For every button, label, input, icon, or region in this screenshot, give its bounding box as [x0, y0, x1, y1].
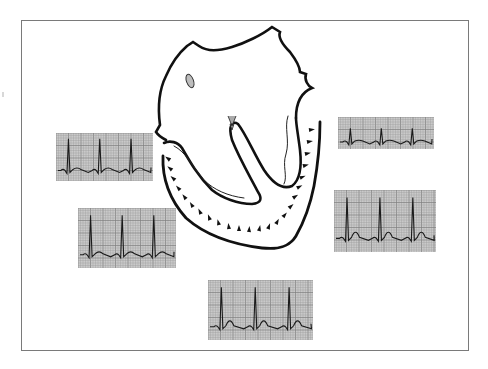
- injury-marker: [182, 194, 187, 200]
- injury-marker: [288, 204, 294, 209]
- injury-zone-arc: [163, 122, 320, 249]
- injury-marker: [165, 157, 171, 162]
- injury-marker: [266, 223, 270, 229]
- ecg-strip-bottom: [208, 280, 313, 340]
- injury-marker: [198, 209, 202, 215]
- ecg-strip-svg: [208, 280, 313, 340]
- injury-marker: [176, 186, 182, 192]
- injury-marker: [170, 176, 176, 181]
- ecg-strip-svg: [338, 117, 434, 149]
- injury-marker: [281, 212, 286, 218]
- injury-marker: [237, 225, 241, 231]
- injury-marker: [227, 223, 231, 229]
- injury-marker: [274, 219, 279, 225]
- injury-marker: [299, 176, 305, 180]
- injury-marker: [190, 202, 195, 208]
- ecg-strip-mid-left: [78, 208, 176, 268]
- injury-marker: [217, 219, 221, 225]
- injury-marker: [307, 140, 313, 144]
- atrial-oval: [184, 73, 195, 89]
- inner-endocardium: [164, 118, 301, 204]
- ecg-strip-mid-right: [334, 190, 436, 252]
- grid-paper: [334, 190, 436, 252]
- ecg-strip-svg: [78, 208, 176, 268]
- injury-marker: [292, 195, 298, 200]
- injury-marker: [247, 226, 251, 232]
- injury-marker: [302, 164, 308, 168]
- injury-markers: [165, 128, 315, 232]
- injury-marker: [305, 152, 311, 156]
- injury-marker: [296, 185, 302, 190]
- ecg-strip-top-left: [56, 133, 153, 181]
- grid-paper: [338, 117, 434, 149]
- injury-marker: [208, 214, 212, 220]
- injury-marker: [167, 166, 173, 171]
- ecg-strip-svg: [334, 190, 436, 252]
- ecg-strip-top-right: [338, 117, 434, 149]
- injury-marker: [257, 225, 261, 231]
- injury-marker: [309, 128, 315, 132]
- ecg-strip-svg: [56, 133, 153, 181]
